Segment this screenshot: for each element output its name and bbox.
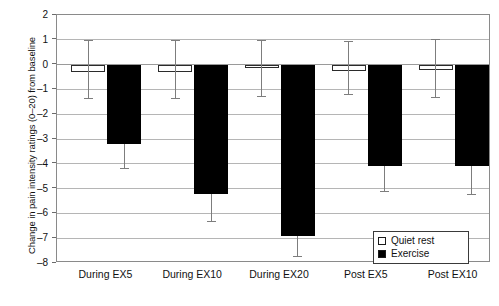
bar-exercise xyxy=(455,65,489,167)
error-bar xyxy=(435,39,436,97)
error-bar xyxy=(384,166,385,191)
bar-group xyxy=(57,15,144,261)
bar-group xyxy=(144,15,231,261)
error-bar-cap xyxy=(431,39,440,40)
error-bar-cap xyxy=(120,168,129,169)
error-bar xyxy=(211,194,212,221)
bar-exercise xyxy=(194,65,228,194)
y-tick-label: –5 xyxy=(22,182,48,193)
bar-group xyxy=(231,15,318,261)
y-tick-label: 2 xyxy=(22,9,48,20)
y-tick-label: 0 xyxy=(22,58,48,69)
legend-item-exercise: Exercise xyxy=(378,247,464,260)
error-bar-cap xyxy=(84,40,93,41)
error-bar xyxy=(124,144,125,168)
error-bar xyxy=(297,236,298,256)
chart-legend: Quiet rest Exercise xyxy=(373,231,469,264)
error-bar-cap xyxy=(431,97,440,98)
error-bar-cap xyxy=(171,40,180,41)
error-bar xyxy=(175,40,176,98)
x-tick-label: Post EX10 xyxy=(428,268,478,280)
error-bar-cap xyxy=(344,41,353,42)
legend-swatch-filled-square-icon xyxy=(378,250,386,258)
error-bar-cap xyxy=(467,194,476,195)
y-tick-label: –8 xyxy=(22,257,48,268)
y-tick-label: –4 xyxy=(22,157,48,168)
legend-label-exercise: Exercise xyxy=(391,248,429,259)
legend-item-quiet-rest: Quiet rest xyxy=(378,234,464,247)
x-tick-label: During EX20 xyxy=(249,268,309,280)
error-bar xyxy=(348,41,349,94)
error-bar-cap xyxy=(207,221,216,222)
legend-swatch-open-square-icon xyxy=(378,237,386,245)
y-tick-label: –3 xyxy=(22,133,48,144)
error-bar xyxy=(261,40,262,96)
error-bar-cap xyxy=(257,96,266,97)
y-tick-label: –2 xyxy=(22,108,48,119)
error-bar-cap xyxy=(293,256,302,257)
bar-exercise xyxy=(368,65,402,167)
bar-group xyxy=(317,15,404,261)
plot-area xyxy=(56,14,490,262)
x-tick-label: During EX10 xyxy=(162,268,222,280)
error-bar-cap xyxy=(171,98,180,99)
y-tick-label: –6 xyxy=(22,207,48,218)
x-tick-label: Post EX5 xyxy=(344,268,388,280)
error-bar-cap xyxy=(380,191,389,192)
bar-exercise xyxy=(281,65,315,236)
y-tick-label: –1 xyxy=(22,83,48,94)
x-tick-label: During EX5 xyxy=(79,268,133,280)
legend-label-quiet-rest: Quiet rest xyxy=(391,235,434,246)
error-bar xyxy=(88,40,89,98)
error-bar-cap xyxy=(84,98,93,99)
error-bar-cap xyxy=(257,40,266,41)
y-tick-label: –7 xyxy=(22,232,48,243)
chart-figure: Change in pain intensity ratings (0–20) … xyxy=(0,0,499,306)
bar-exercise xyxy=(107,65,141,144)
error-bar-cap xyxy=(344,94,353,95)
bar-group xyxy=(404,15,491,261)
error-bar xyxy=(471,166,472,193)
y-tick-label: 1 xyxy=(22,33,48,44)
